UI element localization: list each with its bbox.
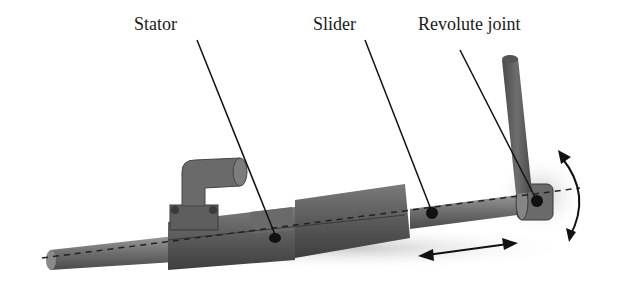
mechanism-illustration (0, 0, 628, 295)
marker-stator (269, 233, 281, 243)
left-rod (46, 236, 175, 270)
leader-revolute-joint (460, 50, 537, 201)
marker-slider (426, 207, 438, 219)
marker-revolute-joint (531, 195, 543, 207)
